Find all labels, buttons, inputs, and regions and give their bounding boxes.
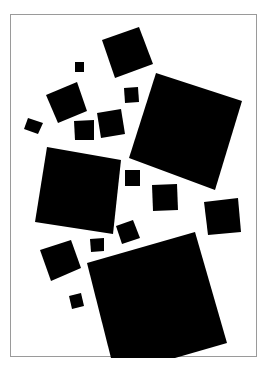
lower-left-square (40, 240, 81, 281)
small-square-b (97, 109, 125, 138)
small-square-c (124, 87, 139, 103)
small-square-a (74, 120, 94, 140)
small-rot-square (116, 220, 140, 244)
small-square-f (90, 238, 104, 252)
top-square (102, 27, 153, 78)
small-left-square (24, 118, 43, 134)
big-bottom-square (87, 232, 227, 358)
tiny-square-1 (75, 62, 84, 72)
big-left-square (35, 147, 121, 234)
tiny-square-2 (69, 293, 84, 309)
small-square-d (125, 170, 140, 186)
small-square-e (152, 184, 178, 211)
big-right-square (129, 73, 242, 190)
mid-left-square (46, 82, 87, 123)
square-composition (0, 0, 262, 369)
right-square (204, 198, 241, 235)
